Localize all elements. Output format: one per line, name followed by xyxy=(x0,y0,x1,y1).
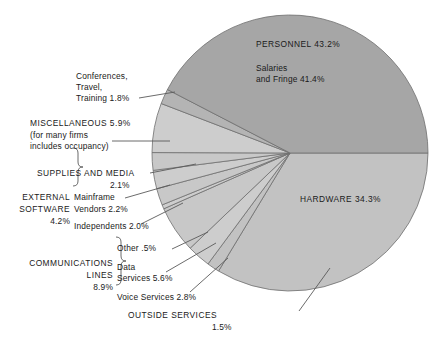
callout-conferences-line1: Conferences, xyxy=(76,71,128,82)
callout-data-services-line1: Data xyxy=(117,262,135,273)
slice-sublabel-salaries-line1: Salaries xyxy=(256,63,287,74)
slice-label-hardware: HARDWARE 34.3% xyxy=(300,194,381,205)
pie-slices-group xyxy=(152,15,428,291)
pie-chart-figure: PERSONNEL 43.2% Salaries and Fringe 41.4… xyxy=(0,0,437,337)
callout-data-services-line2: Services 5.6% xyxy=(117,273,172,284)
group-label-external-software-line1: EXTERNAL xyxy=(0,192,70,203)
callout-supplies-line1: SUPPLIES AND MEDIA xyxy=(37,168,134,179)
group-label-external-software-line2: SOFTWARE xyxy=(0,204,70,215)
slice-sublabel-salaries-line2: and Fringe 41.4% xyxy=(256,74,325,85)
callout-outside-services-line1: OUTSIDE SERVICES xyxy=(128,310,217,321)
callout-outside-services-line2: 1.5% xyxy=(212,322,232,333)
callout-voice-services: Voice Services 2.8% xyxy=(117,292,196,303)
callout-miscellaneous-line1: MISCELLANEOUS 5.9% xyxy=(30,118,131,129)
callout-other: Other .5% xyxy=(117,243,156,254)
callout-miscellaneous-line3: includes occupancy) xyxy=(30,141,109,152)
group-label-communications-line1: COMMUNICATIONS xyxy=(0,258,113,269)
callout-mainframe-line1: Mainframe xyxy=(74,192,115,203)
callout-conferences-line2: Travel, xyxy=(76,82,102,93)
callout-miscellaneous-line2: (for many firms xyxy=(30,130,88,141)
group-label-communications-line3: 8.9% xyxy=(0,282,113,293)
callout-mainframe-line2: Vendors 2.2% xyxy=(74,204,128,215)
slice-label-personnel: PERSONNEL 43.2% xyxy=(256,39,340,50)
callout-conferences-line3: Training 1.8% xyxy=(76,93,129,104)
brace-external-software xyxy=(73,148,83,186)
callout-independents: Independents 2.0% xyxy=(74,221,149,232)
group-label-external-software-line3: 4.2% xyxy=(0,216,70,227)
callout-supplies-line2: 2.1% xyxy=(110,180,130,191)
group-label-communications-line2: LINES xyxy=(0,270,113,281)
